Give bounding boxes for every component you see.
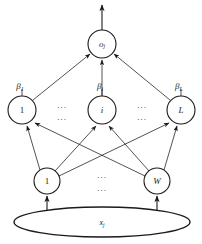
hidden-node-L-label: L <box>177 105 183 115</box>
edge-hiddenL-to-output <box>114 54 170 100</box>
beta-L-subscript: L <box>179 86 184 92</box>
beta-1-label: β1 <box>15 81 23 92</box>
hidden-ellipsis-left-top: ... <box>57 100 67 110</box>
edge-bottom1-to-hiddenL <box>59 123 169 176</box>
output-node-subscript: j <box>102 43 105 49</box>
edge-hidden1-to-output <box>33 54 90 100</box>
beta-i-subscript: i <box>101 86 103 92</box>
edge-bottom1-to-hidden1 <box>27 126 40 170</box>
input-label-subscript: j <box>102 222 105 228</box>
network-diagram-canvas: xj 1 W 1 i L oj <box>0 0 202 244</box>
edge-bottomW-to-hiddenL <box>164 126 177 170</box>
hidden-ellipsis-right-bottom: ... <box>137 112 147 122</box>
beta-1-subscript: 1 <box>21 86 24 92</box>
network-diagram-figure: xj 1 W 1 i L oj <box>0 0 202 244</box>
edge-bottomW-to-hidden1 <box>35 123 145 176</box>
bottom-ellipsis-bottom: ... <box>97 183 107 193</box>
beta-L-label: βL <box>174 81 183 92</box>
input-label: xj <box>98 218 105 228</box>
bottom-ellipsis-top: ... <box>97 170 107 180</box>
hidden-ellipsis-right-top: ... <box>137 100 147 110</box>
hidden-node-1-label: 1 <box>20 105 25 115</box>
edge-bottom1-to-hiddeni <box>55 126 96 171</box>
edge-bottomW-to-hiddeni <box>109 126 149 171</box>
bottom-node-1-label: 1 <box>45 176 50 186</box>
hidden-ellipsis-left-bottom: ... <box>57 112 67 122</box>
